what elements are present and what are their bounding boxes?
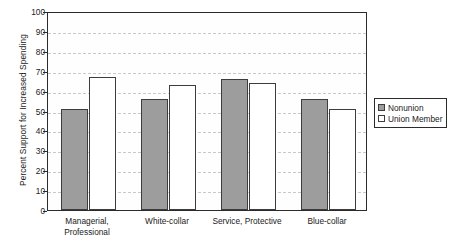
y-axis-tick-label: 70 — [11, 67, 45, 77]
chart-legend: NonunionUnion Member — [374, 98, 447, 128]
bar-union-member-white-collar — [169, 85, 196, 210]
gridline — [48, 33, 366, 34]
y-axis-tick-label: 60 — [11, 87, 45, 97]
plot-area — [47, 12, 367, 211]
y-axis-tick-label: 100 — [11, 7, 45, 17]
y-axis-tick-label: 80 — [11, 47, 45, 57]
y-axis-tick-label: 50 — [11, 107, 45, 117]
x-axis-label-line: Blue-collar — [267, 216, 387, 227]
y-axis-tick-label: 30 — [11, 146, 45, 156]
legend-item-union-member: Union Member — [378, 113, 442, 124]
y-axis-tick-label: 90 — [11, 27, 45, 37]
bar-nonunion-service-protective — [221, 79, 248, 210]
bar-nonunion-blue-collar — [301, 99, 328, 210]
gridline — [48, 53, 366, 54]
bar-union-member-blue-collar — [329, 109, 356, 210]
bar-chart-figure: Percent Support for Increased Spending 0… — [0, 0, 451, 248]
x-axis-category-label: Blue-collar — [267, 216, 387, 227]
bar-union-member-managerial-professional — [89, 77, 116, 210]
bar-union-member-service-protective — [249, 83, 276, 210]
y-axis-tick-label: 0 — [11, 206, 45, 216]
y-axis-tick-mark — [43, 211, 47, 212]
y-axis-tick-label: 10 — [11, 186, 45, 196]
legend-label: Union Member — [388, 114, 442, 124]
legend-label: Nonunion — [388, 103, 424, 113]
bar-nonunion-white-collar — [141, 99, 168, 210]
bar-nonunion-managerial-professional — [61, 109, 88, 210]
x-axis-label-line: Professional — [27, 227, 147, 238]
y-axis-tick-label: 20 — [11, 166, 45, 176]
legend-swatch-icon — [378, 115, 385, 122]
gridline — [48, 73, 366, 74]
legend-swatch-icon — [378, 104, 385, 111]
legend-item-nonunion: Nonunion — [378, 102, 442, 113]
y-axis-tick-label: 40 — [11, 126, 45, 136]
